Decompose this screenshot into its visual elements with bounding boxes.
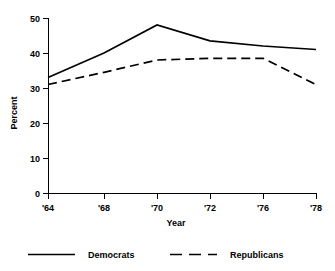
legend-label-republicans: Republicans xyxy=(230,250,284,260)
x-tick-label-76: '76 xyxy=(257,203,269,213)
x-axis-title: Year xyxy=(166,218,186,228)
x-tick-label-70: '70 xyxy=(151,203,163,213)
chart-canvas: 0 10 20 30 40 50 '64 '68 '70 '72 '76 '78… xyxy=(0,0,335,271)
line-chart: 0 10 20 30 40 50 '64 '68 '70 '72 '76 '78… xyxy=(0,0,335,271)
series-line-democrats xyxy=(48,25,316,78)
y-tick-label-30: 30 xyxy=(30,84,40,94)
x-tick-label-72: '72 xyxy=(204,203,216,213)
y-axis-ticks xyxy=(43,19,48,194)
y-tick-label-0: 0 xyxy=(35,189,40,199)
x-tick-label-68: '68 xyxy=(98,203,110,213)
y-tick-label-10: 10 xyxy=(30,154,40,164)
y-tick-label-50: 50 xyxy=(30,14,40,24)
x-tick-label-78: '78 xyxy=(310,203,322,213)
x-axis-tick-labels: '64 '68 '70 '72 '76 '78 xyxy=(42,203,322,213)
series-line-republicans xyxy=(48,58,316,84)
chart-legend: Democrats Republicans xyxy=(28,250,284,260)
legend-label-democrats: Democrats xyxy=(88,250,135,260)
x-tick-label-64: '64 xyxy=(42,203,54,213)
y-axis-title: Percent xyxy=(9,96,19,129)
y-tick-label-40: 40 xyxy=(30,49,40,59)
y-tick-label-20: 20 xyxy=(30,119,40,129)
y-axis-tick-labels: 0 10 20 30 40 50 xyxy=(30,14,40,199)
